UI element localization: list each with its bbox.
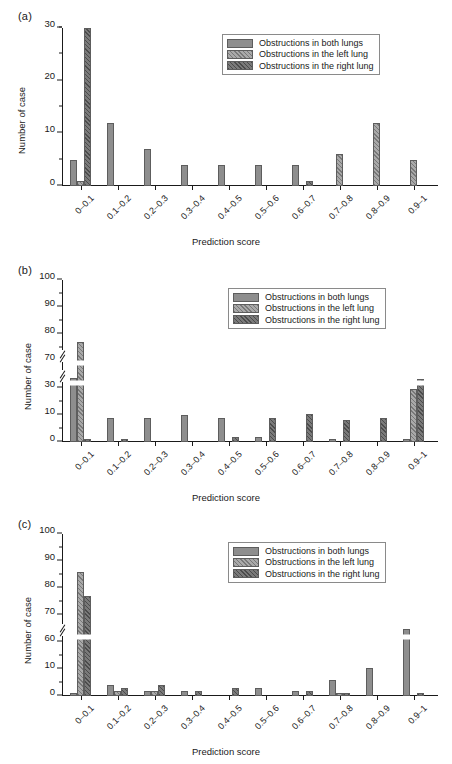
- bar-both: [403, 439, 410, 442]
- legend-swatch-both-icon: [233, 293, 259, 302]
- x-tick-label: 0.5–0.6: [252, 193, 280, 221]
- legend-swatch-left-icon: [227, 50, 253, 59]
- bar-group: [136, 534, 173, 696]
- panel-b: (b)Number of casePrediction score0103070…: [0, 258, 452, 508]
- x-tick: [266, 696, 267, 700]
- bar-both: [70, 160, 77, 186]
- x-tick-label: 0.4–0.5: [215, 449, 243, 477]
- y-tick-label: 60: [44, 633, 55, 643]
- legend-label-both: Obstructions in both lungs: [259, 38, 363, 48]
- x-tick-label: 0.3–0.4: [178, 703, 206, 731]
- bar-group: [395, 534, 432, 696]
- bar-both: [218, 165, 225, 186]
- bar-both: [70, 693, 77, 696]
- x-tick: [340, 696, 341, 700]
- x-tick: [340, 186, 341, 190]
- legend: Obstructions in both lungsObstructions i…: [228, 288, 386, 329]
- panel-label-c: (c): [18, 518, 31, 530]
- y-tick-label: 30: [44, 19, 55, 29]
- panel-c: (c)Number of casePrediction score0106070…: [0, 512, 452, 764]
- legend-swatch-right-icon: [227, 61, 253, 70]
- panel-label-b: (b): [18, 264, 32, 276]
- legend-swatch-left-icon: [233, 304, 259, 313]
- x-tick-label: 0.2–0.3: [141, 193, 169, 221]
- bar-right: [306, 691, 313, 696]
- legend-swatch-both-icon: [233, 547, 259, 556]
- bar-both: [181, 691, 188, 696]
- bar-group: [395, 28, 432, 186]
- bar-group: [62, 28, 99, 186]
- legend-swatch-right-icon: [233, 569, 259, 578]
- legend-label-right: Obstructions in the right lung: [265, 569, 380, 579]
- x-tick-label: 0–0.1: [73, 449, 96, 472]
- bar-both: [218, 418, 225, 442]
- y-tick-label: 90: [44, 552, 55, 562]
- bar-both: [181, 165, 188, 186]
- y-tick-label: 30: [44, 379, 55, 389]
- x-tick: [377, 696, 378, 700]
- x-tick-label: 0–0.1: [73, 193, 96, 216]
- legend-item-both: Obstructions in both lungs: [227, 38, 374, 48]
- legend-label-right: Obstructions in the right lung: [265, 315, 380, 325]
- bar-group: [99, 534, 136, 696]
- legend-item-left: Obstructions in the left lung: [227, 49, 374, 59]
- panel-a: (a)Number of casePrediction score0102030…: [0, 4, 452, 254]
- x-tick-label: 0.8–0.9: [363, 703, 391, 731]
- x-tick: [155, 442, 156, 446]
- x-tick: [81, 696, 82, 700]
- bar-group: [173, 534, 210, 696]
- panel-label-a: (a): [18, 10, 32, 22]
- axis-break-band: [63, 360, 438, 365]
- y-tick-label: 0: [50, 687, 55, 697]
- bar-group: [173, 28, 210, 186]
- bar-group: [99, 28, 136, 186]
- x-tick: [229, 186, 230, 190]
- legend-label-left: Obstructions in the left lung: [259, 49, 368, 59]
- x-axis-title: Prediction score: [0, 746, 452, 757]
- bar-both: [144, 691, 151, 696]
- x-tick: [377, 442, 378, 446]
- bar-both: [329, 680, 336, 696]
- x-tick: [414, 186, 415, 190]
- bar-both: [255, 437, 262, 442]
- legend-item-left: Obstructions in the left lung: [233, 557, 380, 567]
- legend-label-both: Obstructions in both lungs: [265, 546, 369, 556]
- bar-right: [343, 693, 350, 696]
- x-tick-label: 0.6–0.7: [289, 193, 317, 221]
- y-tick-label: 0: [50, 433, 55, 443]
- x-tick: [192, 696, 193, 700]
- x-tick: [155, 696, 156, 700]
- bar-both: [255, 165, 262, 186]
- bar-both: [144, 149, 151, 186]
- x-tick-label: 0.5–0.6: [252, 703, 280, 731]
- x-tick-label: 0.1–0.2: [104, 193, 132, 221]
- bar-left: [373, 123, 380, 186]
- bar-both: [107, 123, 114, 186]
- bar-right: [417, 379, 424, 442]
- legend-label-left: Obstructions in the left lung: [265, 303, 374, 313]
- bar-both: [181, 415, 188, 442]
- bar-right: [232, 688, 239, 696]
- x-tick-label: 0.9–1: [406, 449, 429, 472]
- x-tick-label: 0.3–0.4: [178, 449, 206, 477]
- x-tick: [266, 186, 267, 190]
- bar-right: [343, 420, 350, 442]
- x-tick-label: 0.9–1: [406, 703, 429, 726]
- axis-break-band: [63, 635, 438, 640]
- y-tick-label: 100: [39, 271, 55, 281]
- x-tick-label: 0–0.1: [73, 703, 96, 726]
- y-tick-label: 80: [44, 325, 55, 335]
- y-tick-label: 0: [50, 177, 55, 187]
- y-tick-label: 70: [44, 352, 55, 362]
- x-tick-label: 0.7–0.8: [326, 193, 354, 221]
- bar-right: [232, 437, 239, 442]
- bar-right: [306, 181, 313, 186]
- legend-label-both: Obstructions in both lungs: [265, 292, 369, 302]
- y-axis-title: Number of case: [16, 87, 27, 154]
- bar-both: [292, 691, 299, 696]
- bar-right: [158, 685, 165, 696]
- x-tick: [192, 186, 193, 190]
- x-tick-label: 0.7–0.8: [326, 703, 354, 731]
- x-tick: [414, 442, 415, 446]
- x-tick: [192, 442, 193, 446]
